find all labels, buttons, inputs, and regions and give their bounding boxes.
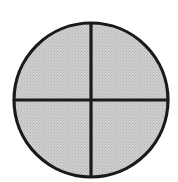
figure-canvas: Quartered circle <box>0 0 178 182</box>
quartered-circle-diagram <box>0 0 178 182</box>
